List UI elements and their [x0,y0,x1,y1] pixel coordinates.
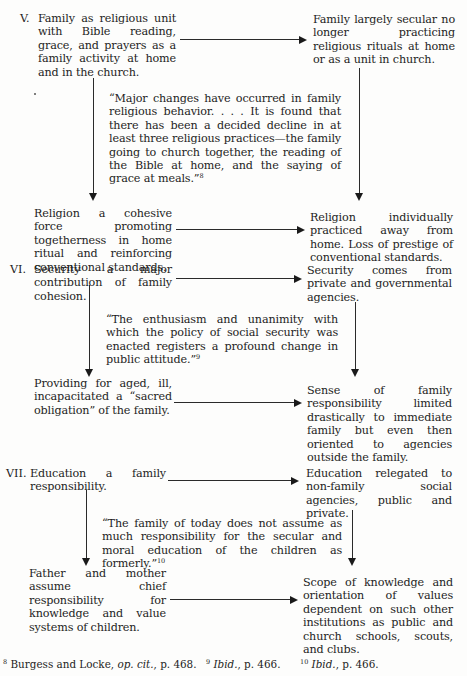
section-numeral: VI. [10,263,26,276]
arrow-down-icon [82,558,90,566]
connector-line [180,39,300,40]
connector-line [176,229,298,230]
arrow-down-icon [351,369,359,377]
arrow-down-icon [85,369,93,377]
footnote-9: 9 Ibid., p. 466. [206,658,281,670]
traditional-family-religion: Family as religious unit with Bible read… [38,12,176,79]
footnote-8: 8 Burgess and Locke, op. cit., p. 468. [3,658,197,670]
quote: “Major changes have occurred in family r… [109,92,341,186]
modern-knowledge-scope: Scope of knowledge and orientation of va… [303,576,453,656]
connector-line [170,599,292,600]
connector-line [93,78,94,194]
connector-line [355,302,356,370]
modern-care-responsibility: Sense of family responsibility limited d… [307,384,452,464]
modern-education: Education relegated to non-family social… [306,467,452,521]
connector-line [176,278,296,279]
connector-line [86,490,87,559]
section-numeral: V. [20,12,30,25]
modern-family-religion: Family largely secular no longer practic… [313,13,455,67]
traditional-knowledge-responsibility: Father and mother assume chief responsib… [29,567,166,634]
traditional-security: Security a major contribution of family … [34,263,172,303]
modern-security: Security comes from private and governme… [307,264,452,304]
connector-line [174,402,296,403]
quote: “The enthusiasm and unanimity with which… [106,313,338,367]
arrow-right-icon [297,226,305,234]
connector-line [352,510,353,560]
traditional-care-obligation: Providing for aged, ill, incapacitated a… [34,377,172,417]
arrow-right-icon [299,36,307,44]
quote: “The family of today does not assume as … [102,517,342,571]
arrow-down-icon [355,193,363,201]
arrow-down-icon [348,558,356,566]
arrow-down-icon [89,193,97,201]
stray-mark [34,93,36,95]
section-numeral: VII. [6,467,26,480]
arrow-right-icon [294,275,302,283]
footnote-10: 10 Ibid., p. 466. [300,658,379,670]
traditional-education: Education a family responsibility. [30,467,166,494]
connector-line [168,480,292,481]
arrow-right-icon [294,399,302,407]
arrow-right-icon [291,477,299,485]
connector-line [89,285,90,371]
modern-religion-role: Religion individually practiced away fro… [310,211,453,265]
arrow-right-icon [290,596,298,604]
connector-line [359,68,360,194]
